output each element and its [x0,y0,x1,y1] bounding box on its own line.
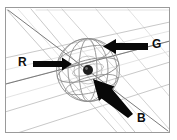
arrow-label-b: B [137,112,146,124]
arrow-label-r: R [18,56,27,68]
sphere-center-dot-highlight [85,67,88,70]
sphere-center-dot [83,65,93,75]
figure-canvas: R G B [0,0,177,140]
arrow-label-g: G [152,38,161,50]
scene-svg [0,0,177,140]
